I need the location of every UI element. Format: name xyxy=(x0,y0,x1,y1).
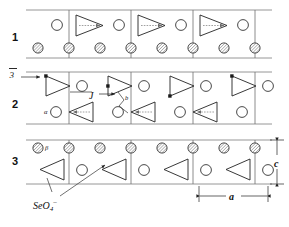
seo4-short-leader xyxy=(47,178,52,192)
row-2-bottom-triangles xyxy=(69,102,217,122)
b-marker-label: b xyxy=(125,94,129,101)
open-circle-site-icon xyxy=(52,20,63,31)
corner-marker xyxy=(106,84,109,87)
corner-marker xyxy=(230,74,233,77)
dimension-c: c xyxy=(270,140,284,184)
hatched-circle-site-icon xyxy=(64,43,74,53)
hatched-circle-site-icon xyxy=(188,143,198,153)
dimension-a-label: a xyxy=(229,191,234,202)
tetrahedron-triangle-icon xyxy=(200,15,227,36)
tetrahedron-triangle-icon xyxy=(131,102,155,122)
open-circle-site-icon xyxy=(139,81,150,92)
row-2-group: 2 3 xyxy=(9,69,274,125)
hatched-circle-site-icon xyxy=(95,143,105,153)
tetrahedron-triangle-icon xyxy=(226,159,250,180)
row-2-label: 2 xyxy=(12,98,18,110)
structure-diagram-svg: 1 xyxy=(0,0,289,227)
hatched-circle-site-icon xyxy=(126,43,136,53)
tetrahedron-triangle-icon xyxy=(164,159,188,180)
tetrahedron-triangle-icon xyxy=(138,15,165,36)
open-circle-site-icon xyxy=(176,20,187,31)
hatched-circle-site-icon xyxy=(64,143,74,153)
open-circle-site-icon xyxy=(77,165,88,176)
open-circle-site-icon xyxy=(77,81,88,92)
seo4-superscript: – xyxy=(52,198,57,206)
hatched-circle-site-icon xyxy=(33,143,43,153)
row-1-triangles xyxy=(76,15,227,36)
alpha-label: α xyxy=(44,108,48,115)
row-1-label: 1 xyxy=(12,31,18,43)
tetrahedron-triangle-icon xyxy=(230,74,256,96)
corner-marker xyxy=(44,74,47,77)
axis-direction-annotation: 3 xyxy=(9,69,41,81)
open-circle-site-icon xyxy=(175,107,186,118)
dimension-a: a xyxy=(199,186,268,202)
tetrahedron-triangle-icon xyxy=(76,15,103,36)
row-2-vertical-lines xyxy=(69,72,255,124)
open-circle-site-icon xyxy=(139,165,150,176)
open-circle-site-icon xyxy=(238,20,249,31)
open-circle-site-icon xyxy=(263,81,274,92)
row-3-hatched-circles xyxy=(33,143,260,153)
row-2-top-triangles xyxy=(44,74,256,97)
hatched-circle-site-icon xyxy=(250,43,260,53)
hatched-circle-site-icon xyxy=(33,43,43,53)
tetrahedron-triangle-icon xyxy=(69,102,93,122)
tetrahedron-triangle-icon xyxy=(168,76,194,98)
hatched-circle-site-icon xyxy=(157,143,167,153)
open-circle-site-icon xyxy=(51,107,62,118)
beta-label: β xyxy=(44,144,49,151)
hatched-circle-site-icon xyxy=(219,143,229,153)
seo4-subscript: 4 xyxy=(50,205,54,213)
tetrahedron-triangle-icon xyxy=(193,102,217,122)
hatched-circle-site-icon xyxy=(250,143,260,153)
hatched-circle-site-icon xyxy=(188,43,198,53)
tetrahedron-triangle-icon xyxy=(102,159,126,180)
hatched-circle-site-icon xyxy=(126,143,136,153)
open-circle-site-icon xyxy=(114,20,125,31)
seo4-element: SeO xyxy=(33,200,50,211)
hatched-circle-site-icon xyxy=(219,43,229,53)
open-circle-site-icon xyxy=(263,165,274,176)
glide-label: J xyxy=(89,90,94,101)
seo4-label: SeO4– xyxy=(33,198,57,213)
axis-symbol-label: 3 xyxy=(9,70,15,80)
tetrahedron-triangle-icon xyxy=(44,74,70,96)
tetrahedron-triangle-icon xyxy=(40,159,64,180)
open-circle-site-icon xyxy=(201,81,212,92)
open-circle-site-icon xyxy=(237,107,248,118)
row-3-label: 3 xyxy=(12,155,18,167)
dimension-c-label: c xyxy=(274,158,279,169)
corner-marker xyxy=(168,94,171,97)
row-3-group: 3 β xyxy=(12,140,273,184)
crystal-structure-figure: 1 xyxy=(0,0,289,227)
row-1-group: 1 xyxy=(12,10,272,58)
hatched-circle-site-icon xyxy=(95,43,105,53)
open-circle-site-icon xyxy=(201,165,212,176)
hatched-circle-site-icon xyxy=(157,43,167,53)
row-1-hatched-circles xyxy=(33,43,260,53)
